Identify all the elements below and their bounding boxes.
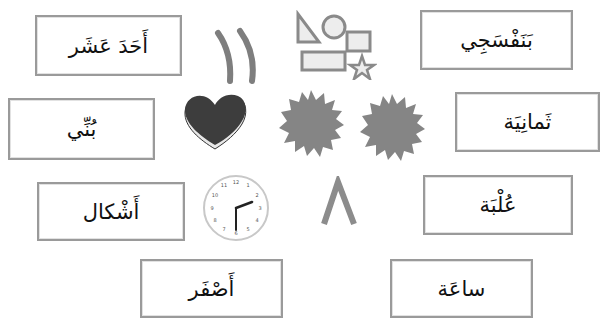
svg-text:7: 7 <box>222 226 225 232</box>
word-card-eleven[interactable]: أَحَدَ عَشَر <box>35 15 182 76</box>
svg-text:8: 8 <box>213 217 216 223</box>
starburst-right-icon[interactable] <box>358 92 426 162</box>
word-label: بُنِّي <box>67 117 97 141</box>
svg-text:1: 1 <box>246 182 249 188</box>
word-card-clock[interactable]: ساعَة <box>390 259 533 318</box>
svg-text:9: 9 <box>210 205 213 211</box>
word-label: ثَمانِيَة <box>504 110 552 134</box>
arabic-numeral-eleven-icon[interactable] <box>210 25 265 85</box>
word-card-brown[interactable]: بُنِّي <box>8 98 155 160</box>
word-label: بَنَفْسَجِي <box>460 28 533 52</box>
svg-text:2: 2 <box>255 192 258 198</box>
svg-text:4: 4 <box>255 217 258 223</box>
arabic-numeral-eight-icon[interactable] <box>320 176 360 228</box>
starburst-left-icon[interactable] <box>277 88 345 158</box>
heart-box-icon[interactable] <box>180 92 250 152</box>
word-label: أَصْفَر <box>189 277 235 301</box>
svg-text:11: 11 <box>221 182 227 188</box>
word-card-shapes[interactable]: أَشْكال <box>37 182 185 241</box>
word-label: عُلْبَة <box>479 193 516 217</box>
clock-icon[interactable]: 1212 345 678 91011 <box>202 174 270 242</box>
word-card-eight[interactable]: ثَمانِيَة <box>455 92 600 152</box>
word-card-violet[interactable]: بَنَفْسَجِي <box>420 10 573 70</box>
word-label: أَحَدَ عَشَر <box>69 34 148 58</box>
svg-text:5: 5 <box>246 226 249 232</box>
word-label: أَشْكال <box>83 200 140 224</box>
svg-text:10: 10 <box>212 192 218 198</box>
word-card-yellow[interactable]: أَصْفَر <box>140 259 283 318</box>
word-card-box[interactable]: عُلْبَة <box>423 175 573 235</box>
svg-text:12: 12 <box>233 179 239 185</box>
svg-text:3: 3 <box>258 205 261 211</box>
geometric-shapes-icon[interactable] <box>292 10 377 80</box>
word-label: ساعَة <box>438 277 486 301</box>
